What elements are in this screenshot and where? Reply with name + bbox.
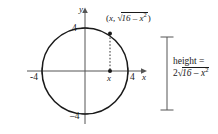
tick-label-y-negative-4: –4 [70,112,80,122]
tick-label-x-negative-4: -4 [30,73,38,83]
tick-label-x-positive-4: 4 [130,73,135,83]
point-label-radical: √16 – x2 [118,14,148,23]
height-radical: √16 – x2 [178,69,210,79]
point-on-circle-marker [108,32,112,36]
y-axis [82,8,88,125]
x-axis-label: x [142,73,146,82]
figure-canvas: y x 4 –4 -4 4 x (x, √16 – x2) height = 2… [0,0,218,134]
point-label-radicand: 16 – x [121,13,143,23]
height-measurement-bracket [161,37,174,110]
height-exponent: 2 [205,65,208,72]
y-axis-label: y [79,5,83,14]
height-annotation-line1: height = [173,56,204,66]
x-axis [27,68,147,74]
tick-label-y-positive-4: 4 [72,24,77,34]
height-annotation: height = 2√16 – x2 [173,57,209,78]
height-annotation-line2: 2√16 – x2 [173,69,209,79]
drop-line-x-label: x [107,74,111,83]
height-radicand: 16 – x [182,68,205,78]
point-coordinate-label: (x, √16 – x2) [106,14,151,23]
point-label-exponent: 2 [143,11,146,18]
point-label-close-paren: ) [148,13,151,23]
